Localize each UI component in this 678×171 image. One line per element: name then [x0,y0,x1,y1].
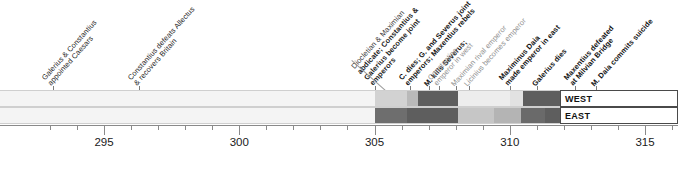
axis-tick-minor [618,125,619,130]
legend-east: EAST [560,107,678,124]
axis-tick-major [375,125,376,135]
axis-tick-label: 295 [94,136,113,148]
axis-tick-minor [483,125,484,130]
event-label-line: & recovers Britain [133,11,203,88]
axis-tick-major [510,125,511,135]
band-segment [375,91,407,106]
band-segment [418,91,459,106]
legend-west: WEST [560,90,678,107]
axis-tick-minor [537,125,538,130]
axis-tick-label: 310 [500,136,519,148]
axis-tick-minor [185,125,186,130]
legend-west-label: WEST [565,94,592,104]
band-segment [458,108,493,123]
year-axis: 295300305310315 [0,125,678,171]
axis-tick-minor [672,125,673,130]
band-segment [375,108,407,123]
band-segment [523,91,564,106]
axis-line [0,125,678,126]
axis-tick-major [104,125,105,135]
event-label-galerius-constantius-caesars: Galerius & Constantiusappointed Caesars [40,19,105,88]
axis-tick-minor [293,125,294,130]
axis-tick-minor [456,125,457,130]
axis-tick-minor [50,125,51,130]
axis-tick-minor [158,125,159,130]
axis-tick-major [239,125,240,135]
event-label-line: Constantius defeats Allectus [127,6,197,83]
axis-tick-minor [429,125,430,130]
band-segment [34,91,375,106]
event-label-constantius-defeats-allectus: Constantius defeats Allectus& recovers B… [127,6,203,88]
band-segment [521,108,545,123]
axis-tick-minor [402,125,403,130]
axis-tick-minor [266,125,267,130]
axis-tick-minor [591,125,592,130]
axis-tick-minor [131,125,132,130]
legend-east-label: EAST [565,111,590,121]
axis-tick-minor [347,125,348,130]
band-segment [510,91,524,106]
axis-tick-minor [320,125,321,130]
event-label-line: appointed Caesars [46,25,104,88]
event-label-line: Galerius & Constantius [40,19,98,82]
ruler-bands: WEST EAST [0,90,678,125]
band-segment [407,108,458,123]
axis-tick-minor [212,125,213,130]
timeline-chart: Galerius & Constantiusappointed CaesarsC… [0,0,678,171]
axis-tick-major [645,125,646,135]
axis-tick-label: 305 [365,136,384,148]
axis-tick-label: 315 [635,136,654,148]
band-segment [458,91,509,106]
axis-tick-label: 300 [230,136,249,148]
band-segment [34,108,375,123]
axis-tick-minor [77,125,78,130]
band-segment [407,91,418,106]
axis-tick-minor [564,125,565,130]
band-segment [494,108,521,123]
